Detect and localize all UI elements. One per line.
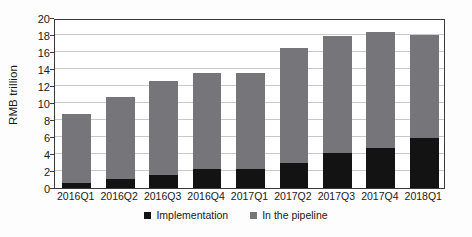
bar-segment-in-the-pipeline[interactable] bbox=[323, 36, 352, 152]
bar-group[interactable] bbox=[323, 36, 352, 187]
x-axis-tick-label: 2017Q4 bbox=[361, 190, 398, 202]
x-axis-tick-label: 2017Q3 bbox=[318, 190, 355, 202]
x-axis-tick-label: 2017Q2 bbox=[274, 190, 311, 202]
legend-label: In the pipeline bbox=[262, 209, 327, 221]
bar-group[interactable] bbox=[410, 35, 439, 187]
legend-item[interactable]: In the pipeline bbox=[250, 209, 327, 221]
legend-swatch-icon bbox=[250, 212, 257, 219]
legend-label: Implementation bbox=[156, 209, 228, 221]
chart-legend: ImplementationIn the pipeline bbox=[0, 209, 472, 221]
bar-group[interactable] bbox=[62, 114, 91, 188]
bar-group[interactable] bbox=[193, 73, 222, 188]
bar-group[interactable] bbox=[280, 48, 309, 187]
bar-segment-in-the-pipeline[interactable] bbox=[280, 48, 309, 163]
bar-segment-in-the-pipeline[interactable] bbox=[236, 73, 265, 169]
bar-segment-in-the-pipeline[interactable] bbox=[149, 81, 178, 175]
x-axis-tick-label: 2018Q1 bbox=[405, 190, 442, 202]
x-axis-tick-label: 2016Q4 bbox=[187, 190, 224, 202]
bar-segment-in-the-pipeline[interactable] bbox=[106, 97, 135, 179]
bar-segment-implementation[interactable] bbox=[106, 179, 135, 188]
y-axis-tick-marks bbox=[0, 19, 60, 189]
bar-segment-implementation[interactable] bbox=[62, 183, 91, 187]
stacked-bar-chart: RMB trillion 02468101214161820 2016Q1201… bbox=[0, 0, 472, 237]
x-axis-tick-label: 2016Q1 bbox=[57, 190, 94, 202]
bar-segment-implementation[interactable] bbox=[280, 163, 309, 188]
bar-segment-implementation[interactable] bbox=[149, 175, 178, 188]
bar-segment-implementation[interactable] bbox=[410, 138, 439, 187]
x-axis-tick-label: 2017Q1 bbox=[231, 190, 268, 202]
x-axis-tick-labels: 2016Q12016Q22016Q32016Q42017Q12017Q22017… bbox=[54, 190, 445, 206]
bar-segment-in-the-pipeline[interactable] bbox=[366, 32, 395, 148]
legend-swatch-icon bbox=[144, 212, 151, 219]
bar-segment-implementation[interactable] bbox=[193, 169, 222, 188]
legend-item[interactable]: Implementation bbox=[144, 209, 228, 221]
plot-area bbox=[54, 19, 445, 189]
bar-segment-in-the-pipeline[interactable] bbox=[193, 73, 222, 169]
x-axis-tick-label: 2016Q3 bbox=[144, 190, 181, 202]
x-axis-tick-label: 2016Q2 bbox=[100, 190, 137, 202]
bar-segment-implementation[interactable] bbox=[236, 169, 265, 188]
bars-layer bbox=[55, 20, 444, 188]
bar-segment-in-the-pipeline[interactable] bbox=[410, 35, 439, 138]
bar-segment-implementation[interactable] bbox=[323, 153, 352, 188]
bar-group[interactable] bbox=[366, 32, 395, 188]
bar-segment-implementation[interactable] bbox=[366, 148, 395, 187]
bar-group[interactable] bbox=[149, 81, 178, 187]
bar-group[interactable] bbox=[236, 73, 265, 188]
bar-segment-in-the-pipeline[interactable] bbox=[62, 114, 91, 184]
bar-group[interactable] bbox=[106, 97, 135, 187]
